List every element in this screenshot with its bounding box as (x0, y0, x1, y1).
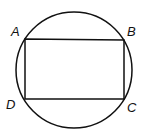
label-b: B (127, 24, 136, 39)
geometry-diagram: A B C D (0, 0, 145, 136)
diagram-canvas: A B C D (0, 0, 145, 136)
rectangle-abcd (25, 39, 124, 99)
label-a: A (10, 24, 20, 39)
circle (16, 12, 132, 128)
label-d: D (6, 97, 15, 112)
label-c: C (127, 100, 137, 115)
